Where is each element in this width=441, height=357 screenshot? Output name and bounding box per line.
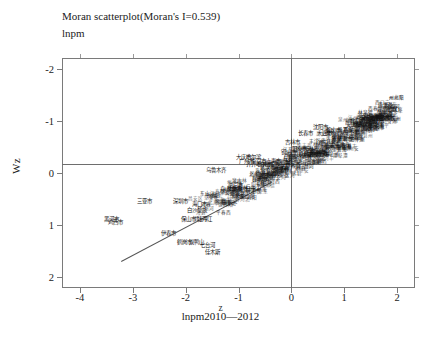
reference-line-horizontal: [62, 164, 415, 165]
scatter-point-label: 泉宁: [338, 127, 348, 132]
scatter-point-label: 山市: [336, 144, 346, 149]
y-tick-mark-right: [415, 121, 419, 122]
x-tick-mark-top: [344, 54, 345, 58]
chart-title: Moran scatterplot(Moran's I=0.539): [62, 10, 220, 22]
scatter-point-label: 江河阳: [314, 148, 329, 153]
chart-subtitle: lnpm: [62, 27, 85, 39]
plot-area: 三亚市深圳市海口市黑河市鸡西市白沙黎族保山市牡丹江伊春市鹤岗市双鸭山七台河佳木斯…: [62, 58, 415, 288]
x-tick-mark-top: [186, 54, 187, 58]
y-tick-mark-right: [415, 173, 419, 174]
scatter-point-label: 潭阜潭: [333, 152, 348, 157]
scatter-point-label: 南州安: [344, 145, 359, 150]
scatter-point-label: 海西庆: [383, 106, 398, 111]
y-tick-mark: [57, 121, 62, 122]
scatter-point-label: 区江: [351, 134, 361, 139]
y-tick-mark: [57, 69, 62, 70]
scatter-point-label: 阜阜: [204, 195, 214, 200]
scatter-point-label: 市口: [261, 182, 271, 187]
y-tick-mark: [57, 277, 62, 278]
scatter-point-label: 海安泉: [316, 131, 331, 136]
scatter-point-label: 林区安: [257, 176, 272, 181]
y-tick-mark-right: [415, 225, 419, 226]
scatter-point-label: 州州: [232, 187, 242, 192]
scatter-point-label: 昌安区: [188, 195, 203, 200]
x-tick-label: -3: [118, 292, 148, 303]
x-tick-label: 2: [382, 292, 412, 303]
scatter-point-label: 区泉: [267, 163, 277, 168]
y-tick-label: -1: [32, 115, 54, 126]
scatter-point-label: 深圳市: [173, 198, 188, 203]
scatter-point-label: 海县: [196, 210, 206, 215]
scatter-point-label: 三亚市: [137, 198, 152, 203]
scatter-point-label: 平春西: [216, 209, 231, 214]
scatter-point-label: 昌阜德: [194, 215, 209, 220]
scatter-point-label: 北南区: [249, 172, 264, 177]
scatter-point-label: 泉庆安: [363, 125, 378, 130]
x-tick-mark-top: [80, 54, 81, 58]
y-tick-mark-right: [415, 277, 419, 278]
x-tick-mark-top: [291, 54, 292, 58]
y-tick-label: 2: [32, 272, 54, 283]
y-tick-mark: [57, 173, 62, 174]
scatter-point-label: 河阜泉: [307, 158, 322, 163]
scatter-point-label: 鸡西市: [108, 219, 123, 224]
x-tick-label: -2: [171, 292, 201, 303]
y-axis-title: Wz: [10, 146, 22, 186]
y-tick-mark-right: [415, 69, 419, 70]
x-tick-mark-top: [397, 54, 398, 58]
scatter-point-label: 丰江: [332, 137, 342, 142]
scatter-point-label: 阜东: [258, 188, 268, 193]
x-tick-mark-top: [239, 54, 240, 58]
y-tick-label: -2: [32, 63, 54, 74]
x-tick-label: 1: [329, 292, 359, 303]
scatter-point-label: 西口宁: [375, 99, 390, 104]
scatter-point-label: 潭安庆: [358, 120, 373, 125]
scatter-point-label: 海潭州: [384, 116, 399, 121]
x-tick-mark-top: [133, 54, 134, 58]
scatter-point-label: 佳木斯: [205, 249, 220, 254]
scatter-point-label: 州北阜: [389, 94, 404, 99]
scatter-point-label: 北德: [345, 117, 355, 122]
x-tick-label: 0: [276, 292, 306, 303]
x-tick-label: -1: [224, 292, 254, 303]
x-tick-label: -4: [65, 292, 95, 303]
y-tick-mark: [57, 225, 62, 226]
y-tick-label: 1: [32, 220, 54, 231]
scatter-point-label: 乌鲁木齐: [206, 167, 226, 172]
y-tick-label: 0: [32, 168, 54, 179]
scatter-point-label: 丘州平: [246, 183, 261, 188]
scatter-point-label: 州西: [216, 197, 226, 202]
chart-caption: lnpm2010—2012: [0, 310, 441, 322]
scatter-point-label: 伊春市: [161, 230, 176, 235]
scatter-point-label: 春河北: [235, 196, 250, 201]
scatter-point-label: 宁市: [287, 152, 297, 157]
scatter-point-label: 丰庆县: [366, 114, 381, 119]
scatter-point-label: 长春市: [298, 131, 313, 136]
